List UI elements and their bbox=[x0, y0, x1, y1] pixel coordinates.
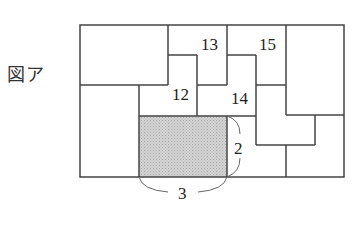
piece-label-15: 15 bbox=[259, 36, 276, 53]
piece-label-13: 13 bbox=[201, 36, 218, 53]
piece-label-12: 12 bbox=[172, 86, 189, 103]
dimension-height: 2 bbox=[234, 140, 243, 157]
shaded-piece bbox=[139, 116, 227, 177]
piece-label-14: 14 bbox=[231, 90, 248, 107]
dimension-width: 3 bbox=[178, 185, 187, 202]
